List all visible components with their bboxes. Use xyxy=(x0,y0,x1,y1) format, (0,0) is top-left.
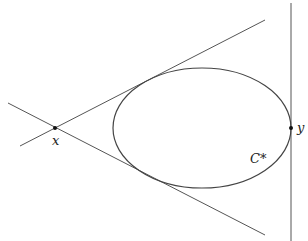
label-conic: C* xyxy=(250,151,267,166)
point-y xyxy=(289,126,293,130)
point-x xyxy=(53,126,57,130)
label-y: y xyxy=(296,120,305,135)
label-x: x xyxy=(52,133,60,148)
conic-ellipse xyxy=(113,68,291,188)
diagram-canvas: x y C* xyxy=(0,0,308,241)
